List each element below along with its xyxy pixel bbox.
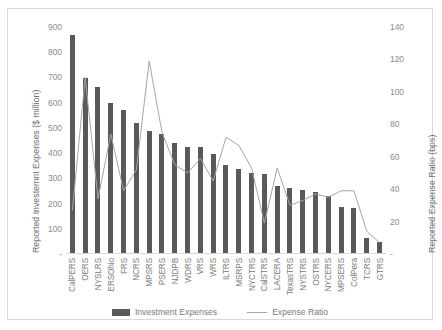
x-label-slot: CalPERS — [66, 256, 79, 314]
bar-MPSERS — [339, 207, 344, 254]
x-label-slot: TCRS — [360, 256, 373, 314]
bar-WDRS — [185, 147, 190, 254]
x-label-slot: MPSRS — [143, 256, 156, 314]
bar-NJDPB — [172, 143, 177, 254]
x-label-slot: VRS — [194, 256, 207, 314]
x-tick-label-NYSTRS: NYSTRS — [298, 258, 307, 291]
bar-slot — [79, 27, 92, 254]
bar-slot — [348, 27, 361, 254]
x-tick-label-NYCERS: NYCERS — [324, 258, 333, 292]
bar-slot — [168, 27, 181, 254]
bar-slot — [194, 27, 207, 254]
bar-LACERA — [275, 186, 280, 254]
x-tick-label-WDRS: WDRS — [183, 258, 192, 283]
bar-slot — [360, 27, 373, 254]
x-tick-label-ILTRS: ILTRS — [221, 258, 230, 280]
bar-slot — [104, 27, 117, 254]
y-tick-right: 40 — [390, 185, 414, 194]
x-label-slot: ColPera — [348, 256, 361, 314]
y-tick-left: 600 — [38, 98, 62, 107]
bar-PSERS — [159, 134, 164, 254]
y-axis-right-ticks: 14012010080604020- — [390, 27, 414, 254]
chart-container: Reported Investemnt Expenses ($ million)… — [7, 8, 433, 320]
x-tick-label-VRS: VRS — [196, 258, 205, 275]
bar-ILTRS — [223, 165, 228, 254]
bar-series-investment-expenses — [66, 27, 386, 254]
bar-NYCERS — [326, 196, 331, 255]
bar-OSTRS — [313, 192, 318, 254]
y-tick-left: - — [38, 250, 62, 259]
y-tick-left: 100 — [38, 224, 62, 233]
bar-slot — [181, 27, 194, 254]
bar-NYCTRS — [249, 173, 254, 254]
bar-slot — [220, 27, 233, 254]
x-label-slot: NYSLRS — [92, 256, 105, 314]
x-label-slot: NCRS — [130, 256, 143, 314]
x-tick-label-MPSRS: MPSRS — [145, 258, 154, 287]
y-tick-right: 120 — [390, 55, 414, 64]
y-tick-right: 100 — [390, 87, 414, 96]
bar-slot — [373, 27, 386, 254]
x-axis-line — [66, 253, 386, 254]
x-tick-label-FRS: FRS — [119, 258, 128, 274]
x-label-slot: NYCTRS — [245, 256, 258, 314]
bar-slot — [258, 27, 271, 254]
bar-slot — [92, 27, 105, 254]
bar-ERSOhio — [108, 103, 113, 254]
x-label-slot: MSRPS — [232, 256, 245, 314]
x-label-slot: ERSOhio — [104, 256, 117, 314]
x-tick-label-CalPERS: CalPERS — [68, 258, 77, 292]
x-label-slot: FRS — [117, 256, 130, 314]
y-tick-left: 300 — [38, 174, 62, 183]
bar-NYSTRS — [300, 190, 305, 254]
x-label-slot: LACERA — [271, 256, 284, 314]
plot-area — [66, 27, 386, 254]
x-label-slot: NYCERS — [322, 256, 335, 314]
x-tick-label-TCRS: TCRS — [362, 258, 371, 280]
x-tick-label-ERSOhio: ERSOhio — [106, 258, 115, 291]
x-tick-label-CalSTRS: CalSTRS — [260, 258, 269, 291]
x-tick-label-MSRPS: MSRPS — [234, 258, 243, 287]
chart-legend: Investment ExpensesExpense Ratio — [8, 307, 432, 317]
legend-line-swatch-icon — [247, 312, 267, 313]
bar-ColPera — [351, 208, 356, 254]
x-label-slot: GTRS — [373, 256, 386, 314]
bar-slot — [335, 27, 348, 254]
bar-slot — [296, 27, 309, 254]
x-tick-label-OERS: OERS — [81, 258, 90, 281]
bar-slot — [117, 27, 130, 254]
y-tick-right: 20 — [390, 217, 414, 226]
bar-slot — [309, 27, 322, 254]
x-axis-labels: CalPERSOERSNYSLRSERSOhioFRSNCRSMPSRSPSER… — [66, 256, 386, 314]
y-tick-right: 80 — [390, 120, 414, 129]
x-label-slot: PSERS — [156, 256, 169, 314]
x-label-slot: OERS — [79, 256, 92, 314]
bar-CalPERS — [70, 35, 75, 254]
y-tick-left: 900 — [38, 23, 62, 32]
y-tick-right: - — [390, 250, 414, 259]
x-tick-label-NYCTRS: NYCTRS — [247, 258, 256, 291]
legend-item-investment-expenses[interactable]: Investment Expenses — [112, 307, 217, 317]
x-tick-label-MPSERS: MPSERS — [337, 258, 346, 292]
legend-label: Expense Ratio — [272, 307, 328, 317]
bar-NYSLRS — [95, 87, 100, 254]
legend-label: Investment Expenses — [135, 307, 217, 317]
bar-TexasTRS — [287, 188, 292, 254]
x-tick-label-NJDPB: NJDPB — [170, 258, 179, 284]
bar-TCRS — [364, 238, 369, 254]
y-tick-left: 500 — [38, 123, 62, 132]
y-tick-right: 60 — [390, 152, 414, 161]
bar-slot — [284, 27, 297, 254]
y-axis-right-title: Reported Expense Ratio (bps) — [427, 135, 437, 253]
bar-FRS — [121, 110, 126, 254]
bar-slot — [322, 27, 335, 254]
x-tick-label-ColPera: ColPera — [349, 258, 358, 287]
bar-slot — [207, 27, 220, 254]
y-tick-left: 200 — [38, 199, 62, 208]
bar-VRS — [198, 147, 203, 254]
x-tick-label-NCRS: NCRS — [132, 258, 141, 281]
bar-MPSRS — [147, 131, 152, 254]
y-tick-left: 800 — [38, 48, 62, 57]
legend-item-expense-ratio[interactable]: Expense Ratio — [247, 307, 328, 317]
bar-CalSTRS — [262, 174, 267, 254]
